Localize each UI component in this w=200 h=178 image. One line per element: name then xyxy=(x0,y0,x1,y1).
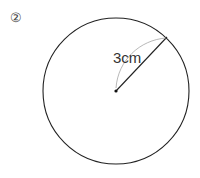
radius-label: 3cm xyxy=(113,49,141,66)
center-point xyxy=(114,89,117,92)
circle-diagram: 3cm xyxy=(0,0,200,178)
